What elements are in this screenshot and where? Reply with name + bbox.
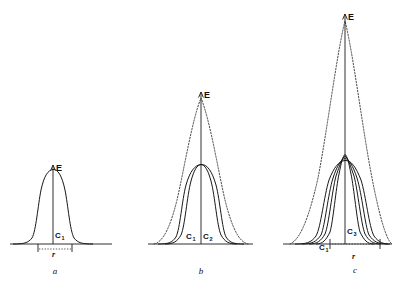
- panel-a-conc-label: C: [55, 231, 61, 240]
- panel-a-radius-label: r: [52, 250, 56, 259]
- panel-a: E C 1 r a: [10, 163, 112, 276]
- panel-c-curve-1: [295, 160, 390, 244]
- panel-b-conc-label-1: C: [186, 232, 192, 241]
- panel-b-conc-label-2: C: [203, 232, 209, 241]
- panel-c-conc-subscript-1: 1: [326, 247, 329, 253]
- panel-c-radius-label: r: [352, 252, 356, 261]
- panel-c-envelope-curve: [290, 21, 392, 244]
- panel-b-caption: b: [199, 266, 204, 276]
- panel-a-axis-label: E: [56, 163, 62, 173]
- panel-b-conc-subscript-1: 1: [193, 236, 196, 242]
- panel-a-caption: a: [53, 266, 58, 276]
- figure-root: E C 1 r a E C 1 C 2 b: [0, 0, 401, 285]
- panel-c-axis-label: E: [348, 12, 354, 22]
- figure-canvas: E C 1 r a E C 1 C 2 b: [0, 0, 401, 285]
- panel-c-conc-subscript-3: 3: [354, 231, 357, 237]
- panel-c: E C 3 C 1 r c: [283, 12, 392, 275]
- panel-c-conc-label-3: C: [347, 227, 353, 236]
- panel-b-axis-label: E: [204, 90, 210, 100]
- panel-b: E C 1 C 2 b: [148, 90, 253, 276]
- panel-a-conc-subscript: 1: [62, 235, 65, 241]
- panel-b-conc-subscript-2: 2: [210, 236, 213, 242]
- panel-c-conc-label-1: C: [319, 243, 325, 252]
- panel-c-caption: c: [353, 265, 357, 275]
